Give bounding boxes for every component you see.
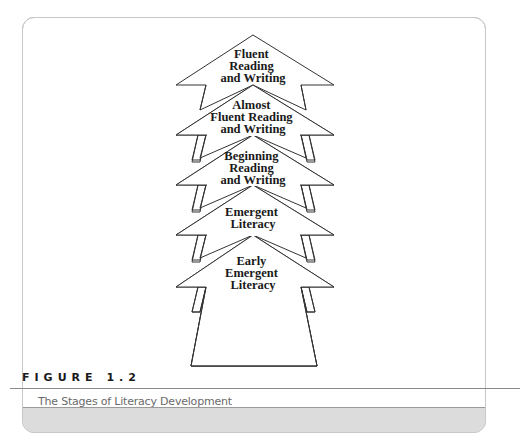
stage-label-beginning: Beginning Reading and Writing	[220, 149, 286, 187]
figure-divider	[10, 388, 520, 389]
stage-label-emergent: Emergent Literacy	[225, 205, 281, 231]
figure-number: FIGURE 1.2	[22, 371, 141, 384]
figure-caption: The Stages of Literacy Development	[38, 395, 232, 408]
